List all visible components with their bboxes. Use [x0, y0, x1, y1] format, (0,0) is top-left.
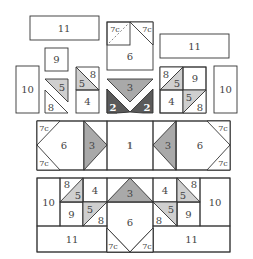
label-9: 9 [53, 54, 59, 65]
label-5: 5 [79, 78, 85, 89]
label-8: 8 [191, 179, 197, 190]
label-8: 8 [64, 179, 70, 190]
label-5: 5 [168, 204, 174, 215]
label-2: 2 [110, 180, 117, 191]
label-11: 11 [66, 234, 79, 245]
label-8: 8 [197, 102, 203, 113]
piece-9-top-left: 9 [45, 48, 68, 71]
label-5: 5 [174, 78, 180, 89]
label-7c: 7c [142, 242, 152, 251]
label-7c: 7c [218, 159, 228, 168]
label-2: 2 [98, 123, 105, 134]
piece-11-top-right: 11 [160, 34, 229, 58]
label-8: 8 [163, 69, 169, 80]
unit-3-2-top: 3 2 2 [107, 79, 153, 113]
label-10: 10 [219, 84, 232, 95]
label-10: 10 [21, 84, 34, 95]
label-8: 8 [90, 69, 96, 80]
label-6: 6 [127, 51, 133, 62]
label-8: 8 [48, 102, 54, 113]
label-10: 10 [209, 197, 222, 208]
quilt-diagram: 11 9 10 5 8 8 5 4 7c 7c 6 [0, 0, 253, 259]
label-5: 5 [59, 82, 65, 93]
label-2: 2 [110, 102, 117, 113]
label-11: 11 [58, 23, 71, 34]
label-10: 10 [42, 197, 55, 208]
label-3: 3 [89, 140, 95, 151]
unit-8-5-4-left: 8 5 4 [76, 67, 99, 113]
unit-right-9-patch: 8 5 9 4 5 8 [160, 67, 206, 113]
label-2: 2 [144, 102, 151, 113]
piece-10-top-right: 10 [214, 66, 237, 113]
label-4: 4 [92, 185, 98, 196]
piece-10-top-left: 10 [16, 66, 39, 113]
label-3: 3 [127, 188, 133, 199]
label-8: 8 [98, 215, 104, 226]
label-7c: 7c [142, 25, 152, 34]
middle-row: 7c 7c 6 2 3 2 1 2 3 2 7c 7c 6 [37, 121, 230, 170]
label-11: 11 [188, 41, 201, 52]
label-4: 4 [162, 185, 168, 196]
label-7c: 7c [108, 242, 118, 251]
label-7c: 7c [110, 25, 120, 34]
label-2: 2 [144, 180, 151, 191]
piece-11-top-left: 11 [30, 16, 99, 40]
label-5: 5 [180, 190, 186, 201]
label-8: 8 [156, 215, 162, 226]
label-7c: 7c [39, 124, 49, 133]
label-2: 2 [98, 158, 105, 169]
label-6: 6 [127, 217, 133, 228]
label-9: 9 [68, 209, 74, 220]
label-2: 2 [156, 123, 163, 134]
label-6: 6 [61, 140, 67, 151]
label-3: 3 [165, 140, 171, 151]
label-9: 9 [192, 73, 198, 84]
label-5: 5 [87, 204, 93, 215]
label-7c: 7c [39, 159, 49, 168]
label-5: 5 [186, 92, 192, 103]
unit-7c-6-top: 7c 7c 6 [107, 22, 153, 70]
label-3: 3 [127, 82, 133, 93]
label-4: 4 [84, 96, 90, 107]
label-6: 6 [197, 140, 203, 151]
label-11: 11 [185, 234, 198, 245]
label-9: 9 [185, 209, 191, 220]
label-4: 4 [168, 96, 174, 107]
label-7c: 7c [218, 124, 228, 133]
label-5: 5 [75, 190, 81, 201]
label-2: 2 [156, 158, 163, 169]
bottom-row: 10 8 5 4 9 5 8 2 3 2 6 7c 7c 4 [37, 178, 230, 252]
label-1: 1 [127, 141, 133, 151]
